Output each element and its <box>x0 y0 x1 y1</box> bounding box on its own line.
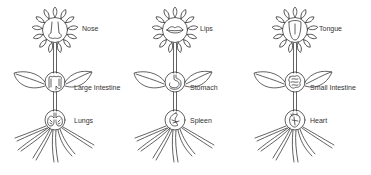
lungs-icon <box>48 113 63 126</box>
label-head-organ: Tongue <box>319 25 342 32</box>
label-bottom-organ: Lungs <box>74 117 93 124</box>
leaf-left-icon <box>134 72 165 88</box>
label-bottom-organ: Heart <box>310 117 327 124</box>
roots-icon <box>255 126 334 162</box>
leaf-left-icon <box>14 72 45 88</box>
stomach-icon <box>169 75 181 89</box>
roots-icon <box>15 126 94 162</box>
spleen-icon <box>170 113 179 126</box>
tongue-icon <box>289 21 301 41</box>
plant-1: Nose Large Intestine Lungs <box>0 0 124 175</box>
label-middle-organ: Small Intestine <box>310 84 356 91</box>
label-bottom-organ: Spleen <box>190 117 212 124</box>
label-middle-organ: Stomach <box>190 84 218 91</box>
label-head-organ: Lips <box>200 25 213 32</box>
middle-organ-circle <box>45 72 65 92</box>
plant-3: Tongue Small Intestine Heart <box>240 0 364 175</box>
middle-organ-circle <box>165 72 185 92</box>
lips-icon <box>167 27 183 33</box>
leaf-left-icon <box>254 72 285 88</box>
plant-2-drawing <box>120 0 244 175</box>
flower-petals-icon <box>32 7 78 53</box>
nose-icon <box>49 22 62 38</box>
heart-icon <box>290 113 301 127</box>
label-middle-organ: Large Intestine <box>74 84 120 91</box>
plant-2: Lips Stomach Spleen <box>120 0 244 175</box>
flower-petals-icon <box>152 7 198 53</box>
roots-icon <box>135 126 214 162</box>
label-head-organ: Nose <box>82 25 98 32</box>
large-intestine-icon <box>49 76 61 90</box>
small-intestine-icon <box>289 76 301 88</box>
